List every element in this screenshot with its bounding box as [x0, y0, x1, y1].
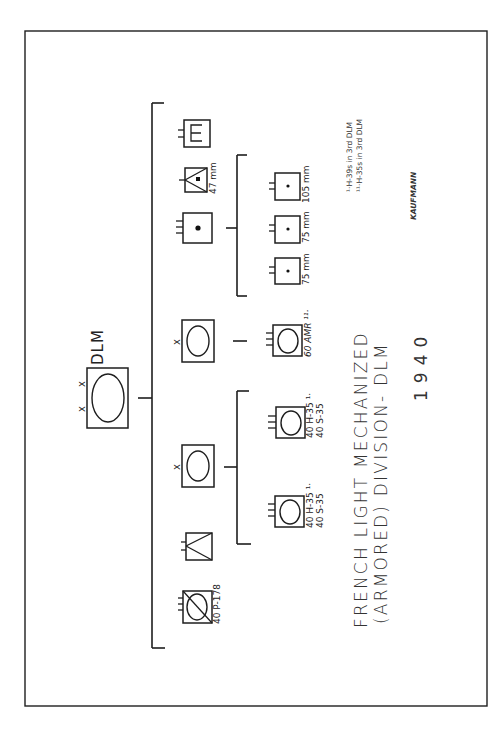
- year: 1940: [411, 330, 431, 401]
- amr-label: 60 AMR ¹¹·: [303, 309, 313, 357]
- unit-dragoons: [181, 533, 212, 560]
- artillery-bracket: [237, 155, 247, 296]
- armor-regiment-1-line2: 40 S-35: [315, 493, 325, 528]
- unit-armor-brigade: x: [171, 445, 237, 487]
- artillery-75mm-2-label: 75 mm: [301, 211, 311, 243]
- amr-regiment: 60 AMR ¹¹·: [266, 309, 313, 357]
- hq-label: DLM: [89, 329, 107, 365]
- footnote-1: ¹·H-39s in 3rd DLM: [345, 122, 354, 192]
- armor-regiment-2-line1: 40 H-35 ¹·: [305, 393, 315, 438]
- org-chart: x x DLM 40 P-178 x: [0, 0, 495, 741]
- unit-recon: 40 P-178: [178, 584, 222, 624]
- unit-anti-tank: 47 mm: [179, 162, 218, 194]
- unit-engineers: [178, 120, 210, 147]
- artillery-group-105mm: 105 mm: [269, 165, 311, 203]
- recon-brigade-echelon-x: x: [171, 339, 182, 345]
- artillery-group-75mm-1: 75 mm: [269, 253, 311, 285]
- armor-brigade-bracket: [237, 391, 251, 544]
- footnote-2: ¹¹·H-35s in 3rd DLM: [355, 119, 364, 192]
- brigade-echelon-x: x: [171, 464, 182, 470]
- hq-echelon-x1: x: [76, 406, 87, 412]
- artillery-105mm-label: 105 mm: [301, 165, 311, 203]
- unit-artillery: [176, 213, 237, 243]
- armor-regiment-2: 40 H-35 ¹· 40 S-35: [268, 393, 325, 438]
- armor-regiment-1-line1: 40 H-35 ¹·: [305, 483, 315, 528]
- armor-regiment-2-line2: 40 S-35: [315, 403, 325, 438]
- main-bracket: [152, 103, 165, 648]
- hq-dlm-symbol: x x DLM: [76, 329, 128, 428]
- recon-label: 40 P-178: [212, 584, 222, 624]
- artillery-group-75mm-2: 75 mm: [269, 211, 311, 243]
- unit-recon-brigade: x: [171, 320, 247, 362]
- title-line-2: (ARMORED) DIVISION- DLM: [371, 342, 391, 624]
- anti-tank-label: 47 mm: [208, 162, 218, 194]
- author-credit: KAUFMANN: [409, 171, 418, 220]
- title-line-1: FRENCH LIGHT MECHANIZED: [351, 331, 371, 628]
- hq-echelon-x2: x: [76, 381, 87, 387]
- armor-regiment-1: 40 H-35 ¹· 40 S-35: [268, 483, 325, 528]
- artillery-75mm-1-label: 75 mm: [301, 253, 311, 285]
